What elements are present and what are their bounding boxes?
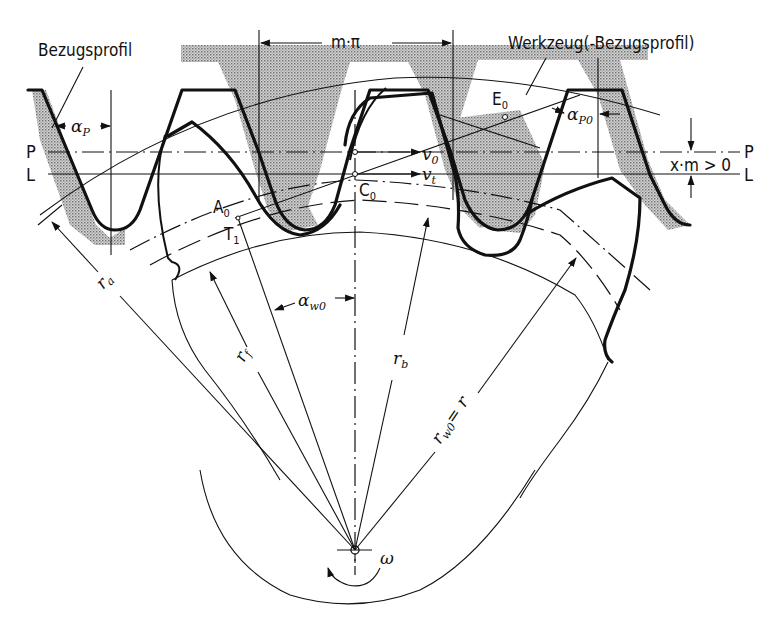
gear-body-left-edge [172,280,280,480]
point-E0 [503,115,508,120]
alpha-w0-arrow-left [275,303,295,310]
L-label-right: L [744,164,753,185]
gear-body-right-edge [520,362,608,498]
rw0-label: rw0= r [427,392,475,448]
tool-profile-label: Werkzeug(-Bezugsprofil) [508,33,695,53]
ra-label: ra [91,268,117,294]
alpha-P0-label: αP0 [567,104,593,127]
base-circle-arc [172,232,608,360]
profile-shift-label: x·m > 0 [670,155,731,175]
radius-rw0-line-1 [355,452,435,550]
reference-profile-label: Bezugsprofil [38,40,132,60]
E0-label: E0 [492,89,508,112]
radius-T1-line [238,218,355,550]
rf-label: rf [230,343,256,366]
point-C0 [353,172,358,177]
rb-label: rb [393,348,408,371]
gear-generation-diagram: m·π αP Bezugsprofil Werkzeug(-Bezugsprof… [0,0,772,627]
alpha-w0-label: αw0 [298,290,326,313]
vt-label: vt [422,164,437,187]
tool-profile-leader [526,58,546,95]
radius-rw0-line-2 [478,258,576,393]
generated-gear [158,88,640,604]
pitch-label: m·π [331,32,360,52]
rotation-arrow [328,568,380,586]
radius-rb-line-2 [404,218,428,335]
rack-profile-outline [28,90,690,230]
point-T1 [236,216,240,220]
omega-label: ω [380,548,394,568]
radius-rf-line-2 [210,272,247,347]
T1-label: T1 [223,224,240,247]
diagram-canvas: m·π αP Bezugsprofil Werkzeug(-Bezugsprof… [0,0,772,627]
L-label-left: L [26,164,35,185]
P-label-left: P [26,141,36,162]
C0-label: C0 [359,180,376,203]
radius-ra-line-1 [120,296,355,550]
gear-tooth-1-left [158,135,179,280]
radius-rb-line-1 [355,380,392,550]
A0-label: A0 [213,197,230,220]
alpha-P-label: αP [71,116,90,139]
pitch-circle-arc [130,180,650,290]
point-pitch [353,150,358,155]
P-label-right: P [744,141,754,162]
tool-rack-body [32,45,690,245]
